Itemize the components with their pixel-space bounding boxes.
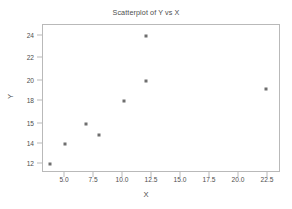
- x-tick-mark: [122, 172, 123, 177]
- x-tick-mark: [238, 172, 239, 177]
- data-point: [145, 80, 148, 83]
- x-tick-label: 5.0: [59, 176, 68, 183]
- y-tick-label: 14: [0, 140, 34, 147]
- plot-area: [42, 24, 280, 172]
- y-axis-label: Y: [6, 89, 15, 105]
- data-point: [85, 123, 88, 126]
- x-tick-label: 17.5: [203, 176, 216, 183]
- y-tick-label: 24: [0, 32, 34, 39]
- x-tick-label: 12.5: [145, 176, 158, 183]
- x-tick-label: 7.5: [88, 176, 97, 183]
- x-tick-label: 20.0: [232, 176, 245, 183]
- x-tick-label: 15.0: [174, 176, 187, 183]
- data-point: [98, 134, 101, 137]
- y-axis-tick-labels: 12141518202224: [0, 0, 34, 209]
- chart-title: Scatterplot of Y vs X: [0, 8, 292, 17]
- y-tick-label: 20: [0, 77, 34, 84]
- x-tick-label: 10.0: [116, 176, 129, 183]
- y-tick-label: 22: [0, 54, 34, 61]
- x-tick-mark: [151, 172, 152, 177]
- x-tick-label: 22.5: [261, 176, 274, 183]
- x-tick-mark: [64, 172, 65, 177]
- x-tick-mark: [209, 172, 210, 177]
- x-tick-mark: [267, 172, 268, 177]
- data-point: [49, 163, 52, 166]
- scatterplot-figure: Scatterplot of Y vs X 12141518202224 5.0…: [0, 0, 292, 209]
- x-axis-label: X: [0, 190, 292, 199]
- x-tick-mark: [180, 172, 181, 177]
- y-tick-label: 15: [0, 120, 34, 127]
- data-point: [64, 143, 67, 146]
- data-point: [123, 100, 126, 103]
- data-point: [145, 35, 148, 38]
- x-tick-mark: [93, 172, 94, 177]
- data-point: [265, 88, 268, 91]
- y-tick-label: 12: [0, 160, 34, 167]
